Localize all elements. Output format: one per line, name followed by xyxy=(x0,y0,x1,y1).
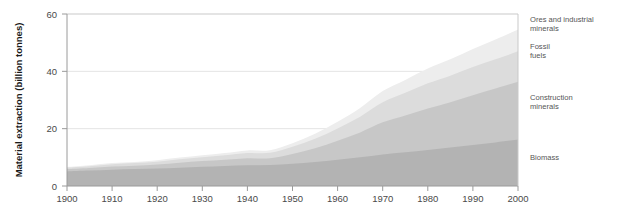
y-tick-label-40: 40 xyxy=(46,66,57,77)
stacked-area-chart: 0 20 40 60 19001910192019301940195019601… xyxy=(0,0,627,223)
x-tick-label-1910: 1910 xyxy=(102,193,123,204)
construction-minerals-label-line1: Construction xyxy=(530,93,573,102)
construction-minerals-label-line2: minerals xyxy=(530,102,559,111)
x-tick-label-1990: 1990 xyxy=(462,193,483,204)
biomass-label: Biomass xyxy=(530,153,559,162)
y-tick-label-20: 20 xyxy=(46,123,57,134)
chart-background xyxy=(0,0,627,223)
x-tick-label-1970: 1970 xyxy=(372,193,393,204)
fossil-fuels-label-line1: Fossil xyxy=(530,42,550,51)
x-tick-label-2000: 2000 xyxy=(507,193,528,204)
x-tick-label-1980: 1980 xyxy=(417,193,438,204)
x-tick-label-1950: 1950 xyxy=(282,193,303,204)
y-axis-title: Material extraction (billion tonnes) xyxy=(13,23,24,178)
x-tick-label-1940: 1940 xyxy=(237,193,258,204)
y-tick-label-60: 60 xyxy=(46,9,57,20)
x-tick-label-1960: 1960 xyxy=(327,193,348,204)
fossil-fuels-label-line2: fuels xyxy=(530,51,546,60)
x-tick-label-1920: 1920 xyxy=(147,193,168,204)
ores-and-industrial-minerals-label-line1: Ores and industrial xyxy=(530,15,594,24)
y-tick-label-0: 0 xyxy=(52,181,57,192)
x-tick-label-1930: 1930 xyxy=(192,193,213,204)
chart-figure: 0 20 40 60 19001910192019301940195019601… xyxy=(0,0,627,223)
x-tick-label-1900: 1900 xyxy=(56,193,77,204)
ores-and-industrial-minerals-label-line2: minerals xyxy=(530,24,559,33)
